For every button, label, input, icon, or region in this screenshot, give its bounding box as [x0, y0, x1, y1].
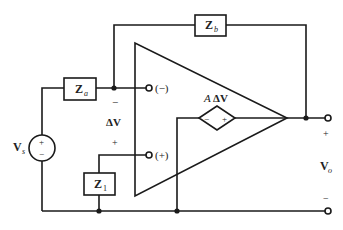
source-to-za-wire	[42, 88, 64, 135]
dependent-voltage-source: − + A ΔV	[199, 92, 235, 130]
junction-node-dep-ground	[174, 208, 179, 213]
delta-v-plus-sign: +	[112, 137, 118, 148]
z1-label: Z	[94, 177, 102, 191]
input-voltage-annotation: − ΔV +	[106, 96, 121, 148]
source-plus-sign: +	[39, 137, 44, 147]
noninverting-terminal	[146, 152, 152, 158]
vo-plus-sign: +	[323, 128, 329, 139]
inverting-terminal	[146, 85, 152, 91]
source-minus-sign: −	[39, 149, 44, 159]
impedance-zb: Z b	[195, 15, 226, 36]
vo-subscript: o	[328, 166, 332, 175]
junction-node-z1-ground	[96, 208, 101, 213]
output-terminal-negative	[325, 208, 331, 214]
circuit-diagram: (−) (+) Z a Z b Z 1 + − V s − ΔV + − + A…	[0, 0, 343, 230]
gain-delta-v-label: ΔV	[213, 92, 228, 104]
feedback-wire-left	[114, 25, 195, 88]
inverting-input-label: (−)	[155, 82, 169, 95]
junction-node-inverting	[111, 85, 116, 90]
vo-minus-sign: −	[323, 193, 329, 204]
z1-subscript: 1	[103, 184, 107, 193]
za-label: Z	[75, 82, 83, 96]
delta-v-label: ΔV	[106, 116, 121, 128]
source-subscript: s	[22, 147, 25, 156]
impedance-za: Z a	[64, 78, 96, 100]
dependent-source-plus: +	[222, 114, 227, 124]
zb-label: Z	[205, 18, 213, 32]
voltage-source-vs: + − V s	[13, 135, 55, 161]
output-voltage-annotation: + V o −	[320, 128, 332, 204]
junction-node-output	[303, 115, 308, 120]
impedance-z1: Z 1	[84, 173, 115, 195]
delta-v-minus-sign: −	[112, 96, 118, 108]
gain-a-label: A	[203, 92, 211, 104]
dependent-source-minus: −	[204, 114, 209, 124]
za-subscript: a	[84, 89, 88, 98]
source-label: V	[13, 140, 22, 154]
zb-subscript: b	[214, 25, 218, 34]
output-terminal-positive	[325, 115, 331, 121]
noninverting-input-label: (+)	[155, 149, 169, 162]
feedback-wire-right	[226, 25, 306, 118]
noninverting-input-wire	[99, 155, 146, 173]
